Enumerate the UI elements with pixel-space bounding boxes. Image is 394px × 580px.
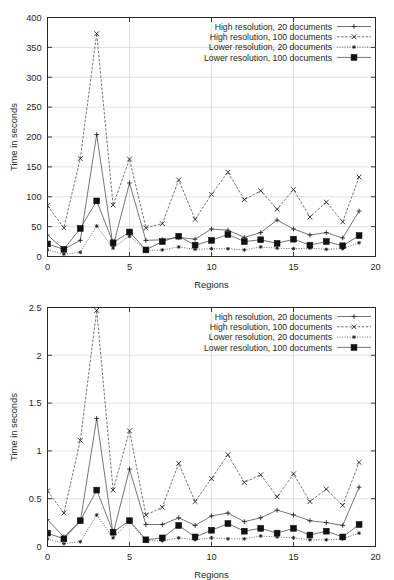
data-point-marker-square (192, 534, 198, 540)
data-point-marker-plus (275, 508, 280, 513)
data-point-marker-square (143, 537, 149, 543)
legend-label: Lower resolution, 100 documents (204, 343, 333, 353)
series-polyline (48, 226, 360, 254)
data-point-marker-square (209, 527, 215, 533)
data-point-marker-square (192, 242, 198, 248)
data-point-marker-plus (291, 513, 296, 518)
data-point-marker-square (77, 518, 83, 524)
data-point-marker-plus (94, 132, 99, 137)
data-point-marker-plus (340, 236, 345, 241)
series-polyline (48, 135, 360, 250)
y-tick-label: 300 (26, 73, 41, 83)
x-axis-title: Regions (194, 279, 229, 290)
data-point-marker-cross (258, 472, 263, 477)
data-point-marker-star (242, 537, 246, 541)
data-point-marker-star (226, 247, 230, 251)
x-tick-label: 20 (370, 262, 380, 272)
x-tick-label: 0 (45, 552, 50, 562)
data-point-marker-cross (340, 503, 345, 508)
data-point-marker-plus (352, 314, 357, 319)
data-point-marker-square (127, 518, 133, 524)
data-point-marker-star (95, 513, 99, 517)
data-point-marker-star (62, 252, 66, 256)
data-point-marker-plus (308, 518, 313, 523)
data-point-marker-square (351, 55, 357, 61)
y-tick-label: 350 (26, 43, 41, 53)
legend-label: Lower resolution, 100 documents (204, 53, 333, 63)
data-point-marker-square (274, 240, 280, 246)
data-point-marker-plus (352, 24, 357, 29)
chart-svg: 00.511.522.505101520RegionsTime in secon… (0, 290, 394, 580)
data-point-marker-plus (209, 227, 214, 232)
legend-label: Lower resolution, 20 documents (209, 42, 333, 52)
data-point-marker-star (95, 224, 99, 228)
data-point-marker-star (275, 246, 279, 250)
x-tick-label: 15 (288, 552, 298, 562)
data-point-marker-cross (357, 460, 362, 465)
y-tick-label: 0 (36, 542, 41, 552)
data-point-marker-star (352, 335, 356, 339)
y-tick-label: 2.5 (29, 303, 42, 313)
data-point-marker-square (258, 525, 264, 531)
series-1 (45, 132, 361, 252)
data-point-marker-plus (340, 523, 345, 528)
data-point-marker-cross (340, 219, 345, 224)
data-point-marker-cross (258, 188, 263, 193)
y-tick-label: 0 (36, 252, 41, 262)
data-point-marker-square (94, 487, 100, 493)
y-tick-label: 400 (26, 13, 41, 23)
y-tick-label: 250 (26, 102, 41, 112)
x-axis-title: Regions (194, 569, 229, 580)
data-point-marker-plus (193, 237, 198, 242)
data-point-marker-star (352, 45, 356, 49)
plot-series-group (45, 31, 362, 256)
legend-label: Lower resolution, 20 documents (209, 332, 333, 342)
data-point-marker-square (143, 247, 149, 253)
data-point-marker-cross (226, 452, 231, 457)
data-point-marker-star (324, 247, 328, 251)
x-tick-label: 5 (127, 262, 132, 272)
data-point-marker-square (110, 529, 116, 535)
series-3 (46, 224, 361, 256)
y-tick-label: 200 (26, 132, 41, 142)
data-point-marker-plus (324, 520, 329, 525)
data-point-marker-plus (176, 515, 181, 520)
data-point-marker-plus (193, 523, 198, 528)
data-point-marker-square (225, 231, 231, 237)
x-tick-label: 10 (206, 262, 216, 272)
data-point-marker-star (177, 245, 181, 249)
x-tick-label: 20 (370, 552, 380, 562)
y-tick-label: 0.5 (29, 494, 42, 504)
y-axis-title: Time in seconds (8, 103, 19, 171)
data-point-marker-star (357, 531, 361, 535)
data-point-marker-cross (144, 225, 149, 230)
data-point-marker-cross (324, 487, 329, 492)
data-point-marker-square (356, 233, 362, 239)
data-point-marker-cross (275, 207, 280, 212)
data-point-marker-plus (160, 522, 165, 527)
data-point-marker-cross (308, 215, 313, 220)
data-point-marker-cross (324, 200, 329, 205)
data-point-marker-square (291, 525, 297, 531)
data-point-marker-plus (144, 522, 149, 527)
data-point-marker-square (77, 226, 83, 232)
data-point-marker-star (210, 536, 214, 540)
data-point-marker-square (61, 246, 67, 252)
data-point-marker-star (292, 247, 296, 251)
data-point-marker-plus (127, 181, 132, 186)
series-polyline (48, 515, 360, 544)
y-tick-label: 2 (36, 351, 41, 361)
data-point-marker-square (307, 532, 313, 538)
data-point-marker-star (210, 247, 214, 251)
chart-svg: 05010015020025030035040005101520RegionsT… (0, 0, 394, 290)
data-point-marker-cross (193, 499, 198, 504)
x-tick-label: 15 (288, 262, 298, 272)
data-point-marker-square (94, 198, 100, 204)
data-point-marker-plus (357, 485, 362, 490)
data-point-marker-star (259, 245, 263, 249)
data-point-marker-cross (242, 480, 247, 485)
data-point-marker-square (176, 523, 182, 529)
data-point-marker-star (324, 538, 328, 542)
data-point-marker-plus (209, 514, 214, 519)
data-point-marker-star (226, 537, 230, 541)
